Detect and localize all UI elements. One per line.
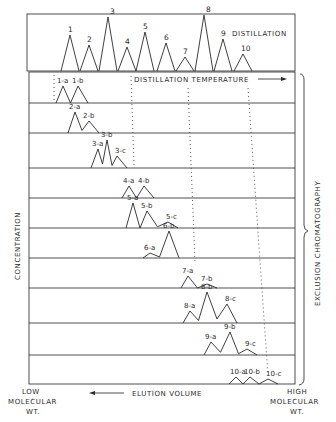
peak-label: 6 — [164, 33, 169, 42]
peak-label: 3-c — [115, 147, 126, 155]
peak-label: 5-a — [127, 194, 138, 202]
peak-label: 1 — [68, 25, 73, 34]
peak-label: 7-b — [201, 275, 213, 283]
peak-label: 9 — [221, 29, 226, 38]
elution-volume-label: ELUTION VOLUME — [132, 390, 202, 398]
distillation-peak: 10 — [234, 44, 252, 71]
peak-label: 9-b — [224, 323, 236, 331]
peak-label: 6-b — [163, 222, 175, 230]
dotted-trace-2 — [131, 76, 134, 165]
peak-label: 10 — [241, 44, 251, 53]
peak-label: 2 — [87, 35, 92, 44]
peak-label: 2-a — [69, 103, 80, 111]
chromatography-figure: DISTILLATION 12345678910 DISTILLATION TE… — [0, 0, 336, 422]
concentration-label: CONCENTRATION — [14, 212, 22, 280]
peak-label: 9-c — [245, 340, 256, 348]
distillation-peak: 7 — [176, 47, 194, 71]
peak-label: 4-a — [123, 177, 134, 185]
distillation-peak: 8 — [195, 5, 213, 71]
low-mw-line3: WT. — [26, 408, 40, 416]
chromatogram-row: 10-a10-b10-c — [229, 368, 281, 384]
peak-label: 8-a — [184, 302, 195, 310]
peak-label: 10-c — [266, 370, 281, 378]
peak-label: 3-a — [92, 140, 103, 148]
peak-label: 5-b — [141, 202, 153, 210]
chromatogram-row: 1-a1-b — [56, 77, 88, 103]
dotted-trace-3 — [188, 88, 195, 262]
arrow-right-icon — [258, 77, 287, 81]
peak-label: 9-a — [205, 333, 216, 341]
peak-label: 6-a — [144, 244, 155, 252]
exclusion-bracket — [299, 74, 308, 385]
high-mw-line2: MOLECULAR — [270, 398, 319, 406]
low-mw-line1: LOW — [22, 388, 40, 396]
distillation-peak: 4 — [118, 37, 136, 71]
distillation-peak: 9 — [214, 29, 232, 71]
peak-label: 8 — [206, 5, 211, 14]
exclusion-chromatography-label: EXCLUSION CHROMATOGRAPHY — [314, 181, 322, 306]
chromatogram-row: 2-a2-b — [68, 103, 99, 133]
distillation-temperature-label: DISTILLATION TEMPERATURE — [134, 76, 249, 84]
peak-label: 2-b — [83, 112, 95, 120]
chromatogram-row: 9-a9-b9-c — [204, 323, 257, 355]
peak-label: 5-c — [166, 213, 177, 221]
peak-label: 7 — [183, 47, 188, 56]
peak-label: 3 — [110, 7, 115, 16]
low-mw-line2: MOLECULAR — [8, 398, 57, 406]
chromatogram-row: 3-a3-b3-c — [91, 131, 127, 168]
peak-label: 10-b — [244, 368, 260, 376]
distillation-peak: 6 — [157, 33, 175, 71]
distillation-label: DISTILLATION — [232, 30, 287, 38]
distillation-peak: 1 — [61, 25, 79, 71]
peak-label: 4 — [125, 37, 130, 46]
high-mw-line1: HIGH — [287, 388, 307, 396]
high-mw-line3: WT. — [290, 408, 304, 416]
distillation-peak: 5 — [136, 22, 154, 71]
distillation-peak: 2 — [80, 35, 98, 71]
chromatogram-row: 8-a8-b8-c — [183, 283, 237, 323]
row-dividers — [29, 103, 295, 355]
peak-label: 8-c — [225, 295, 236, 303]
peak-label: 1-a — [57, 77, 68, 85]
distillation-peaks: 12345678910 — [61, 5, 252, 71]
peak-label: 7-a — [182, 267, 193, 275]
arrow-left-icon — [89, 391, 124, 395]
peak-label: 4-b — [138, 177, 150, 185]
distillation-peak: 3 — [99, 7, 117, 71]
distillation-panel — [27, 14, 295, 71]
dotted-trace-4 — [248, 88, 268, 376]
peak-label: 3-b — [101, 131, 113, 139]
chromatogram-row: 6-a6-b — [143, 222, 179, 258]
peak-label: 8-b — [201, 283, 213, 291]
chromatography-peaks: 1-a1-b2-a2-b3-a3-b3-c4-a4-b5-a5-b5-c6-a6… — [56, 77, 281, 384]
peak-label: 5 — [143, 22, 148, 31]
peak-label: 1-b — [72, 77, 84, 85]
